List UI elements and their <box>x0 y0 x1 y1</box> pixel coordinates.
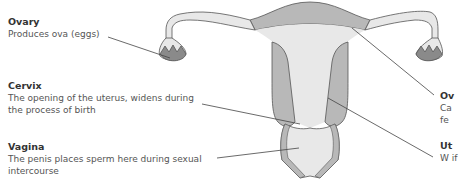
uterus-leader-line <box>328 98 433 157</box>
left-oviduct <box>166 12 255 40</box>
ovary-title: Ovary <box>8 16 118 28</box>
uterus-description: W if <box>440 152 460 164</box>
cervix-title: Cervix <box>8 80 204 92</box>
uterus-label: Ut W if <box>440 140 460 164</box>
right-ovary <box>416 45 442 61</box>
vagina-description: The penis places sperm here during sexua… <box>8 153 218 177</box>
right-oviduct <box>365 11 438 40</box>
oviduct-description: Ca fe <box>440 102 460 126</box>
vagina-label: Vagina The penis places sperm here durin… <box>8 141 218 177</box>
oviduct-leader-line <box>352 28 434 95</box>
ovary-description: Produces ova (eggs) <box>8 28 118 40</box>
uterus-cavity <box>255 24 365 128</box>
vagina-title: Vagina <box>8 141 218 153</box>
cervix-label: Cervix The opening of the uterus, widens… <box>8 80 204 116</box>
uterus-title: Ut <box>440 140 460 152</box>
oviduct-title: Ov <box>440 90 460 102</box>
vagina <box>281 124 339 178</box>
oviduct-label: Ov Ca fe <box>440 90 460 126</box>
cervix-description: The opening of the uterus, widens during… <box>8 92 204 116</box>
left-ovary <box>160 45 186 61</box>
ovary-label: Ovary Produces ova (eggs) <box>8 16 118 40</box>
